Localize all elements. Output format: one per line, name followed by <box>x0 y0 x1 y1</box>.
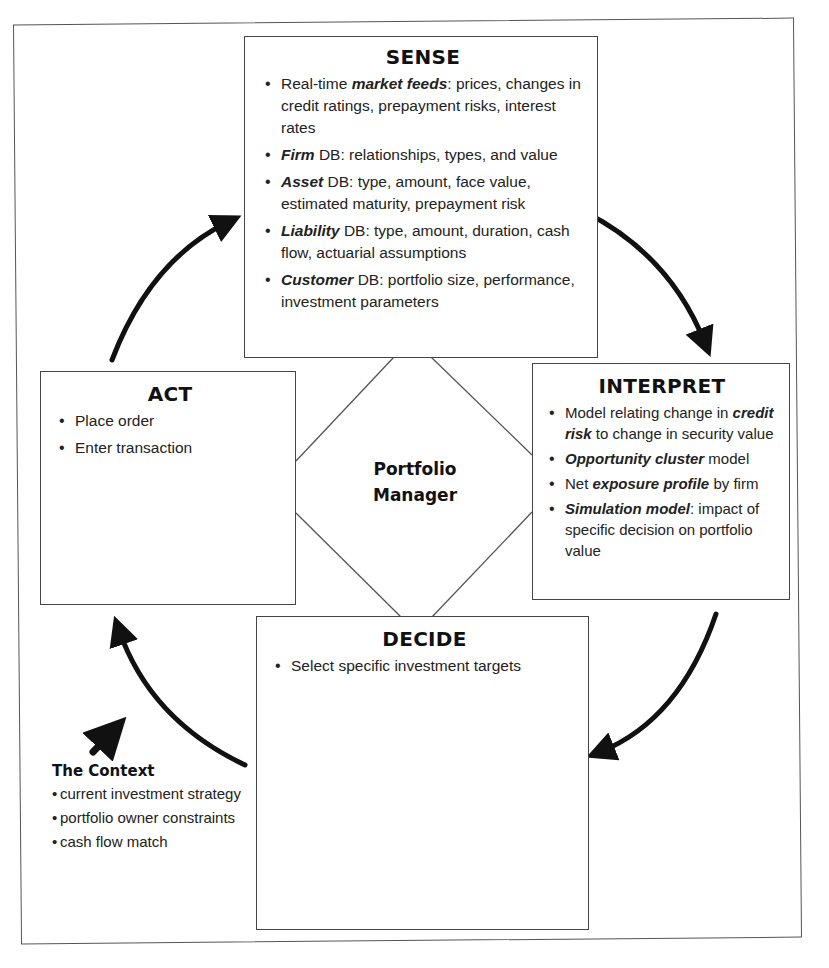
interpret-item: Simulation model: impact of specific dec… <box>543 498 781 561</box>
act-item: Place order <box>53 410 287 432</box>
arrow-act-to-sense <box>112 222 228 360</box>
sense-item: Firm DB: relationships, types, and value <box>259 144 587 166</box>
sense-item: Real-time market feeds: prices, changes … <box>259 73 587 139</box>
interpret-list: Model relating change in credit risk to … <box>543 402 781 561</box>
interpret-box: INTERPRET Model relating change in credi… <box>532 363 790 600</box>
interpret-item: Model relating change in credit risk to … <box>543 402 781 444</box>
act-box: ACT Place order Enter transaction <box>40 371 296 605</box>
decide-title: DECIDE <box>269 627 580 651</box>
interpret-item: Net exposure profile by firm <box>543 473 781 494</box>
context-title: The Context <box>52 762 252 780</box>
context-item: cash flow match <box>52 832 252 852</box>
arrow-sense-to-interpret <box>585 212 705 343</box>
decide-box: DECIDE Select specific investment target… <box>256 616 589 930</box>
sense-list: Real-time market feeds: prices, changes … <box>259 73 587 313</box>
interpret-title: INTERPRET <box>543 374 781 398</box>
context-item: current investment strategy <box>52 784 252 804</box>
arrow-interpret-to-decide <box>600 614 716 752</box>
arrow-context <box>93 732 112 752</box>
decide-item: Select specific investment targets <box>269 655 580 677</box>
act-title: ACT <box>53 382 287 406</box>
decide-list: Select specific investment targets <box>269 655 580 677</box>
context-panel: The Context current investment strategy … <box>52 762 252 856</box>
sense-title: SENSE <box>259 45 587 69</box>
sense-item: Customer DB: portfolio size, performance… <box>259 269 587 313</box>
context-item: portfolio owner constraints <box>52 808 252 828</box>
center-line-1: Portfolio <box>340 456 490 482</box>
act-list: Place order Enter transaction <box>53 410 287 459</box>
interpret-item: Opportunity cluster model <box>543 448 781 469</box>
arrow-decide-to-act <box>119 630 245 765</box>
center-line-2: Manager <box>340 482 490 508</box>
sense-item: Liability DB: type, amount, duration, ca… <box>259 220 587 264</box>
context-list: current investment strategy portfolio ow… <box>52 784 252 852</box>
sense-item: Asset DB: type, amount, face value, esti… <box>259 171 587 215</box>
portfolio-manager-label: Portfolio Manager <box>340 456 490 508</box>
sense-box: SENSE Real-time market feeds: prices, ch… <box>244 36 598 358</box>
act-item: Enter transaction <box>53 437 287 459</box>
